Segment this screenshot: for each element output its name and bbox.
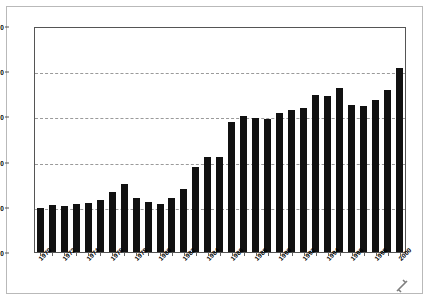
bar [180,189,187,252]
watermark-icon [395,279,409,293]
x-tick-mark [220,253,221,256]
x-tick-mark [52,253,53,256]
bar [204,157,211,252]
bar [168,198,175,252]
bar [252,118,259,252]
x-tick-mark [100,253,101,256]
bar [85,203,92,252]
bar [384,90,391,252]
y-tick-label: 250 [0,24,4,31]
y-tick-mark [5,27,9,28]
bar [228,122,235,252]
y-tick-label: 100 [0,159,4,166]
bar [49,205,56,252]
bar [61,206,68,252]
y-tick-label: 150 [0,114,4,121]
bar [300,108,307,252]
x-tick-mark [76,253,77,256]
y-tick-label: 0 [0,250,4,257]
bar [97,200,104,252]
x-tick-mark [388,253,389,256]
bar [312,95,319,252]
bar-series [35,28,405,252]
bar [73,204,80,252]
x-tick-mark [340,253,341,256]
y-tick-mark [5,207,9,208]
y-tick-mark [5,117,9,118]
bar [145,202,152,252]
x-tick-mark [364,253,365,256]
x-tick-mark [292,253,293,256]
bar [157,204,164,252]
x-tick-mark [316,253,317,256]
y-tick-mark [5,162,9,163]
x-tick-mark [148,253,149,256]
bar [264,119,271,252]
bar-chart: 050100150200250 197019721974197619781980… [0,0,431,302]
x-tick-mark [172,253,173,256]
x-tick-mark [196,253,197,256]
bar [121,184,128,252]
bar [240,116,247,252]
y-tick-mark [5,72,9,73]
y-tick-label: 50 [0,204,4,211]
x-tick-mark [244,253,245,256]
y-axis: 050100150200250 [0,0,34,254]
bar [216,157,223,252]
bar [348,105,355,252]
y-tick-mark [5,253,9,254]
bar [372,100,379,252]
plot-area [34,27,406,253]
bar [288,110,295,252]
bar [37,208,44,252]
bar [396,68,403,252]
x-tick-mark [124,253,125,256]
bar [324,96,331,252]
bar [360,106,367,252]
x-tick-mark [268,253,269,256]
bar [192,167,199,252]
bar [336,88,343,252]
bar [133,198,140,252]
x-axis: 1970197219741976197819801982198419861988… [34,255,406,301]
bar [109,192,116,252]
y-tick-label: 200 [0,69,4,76]
bar [276,113,283,252]
